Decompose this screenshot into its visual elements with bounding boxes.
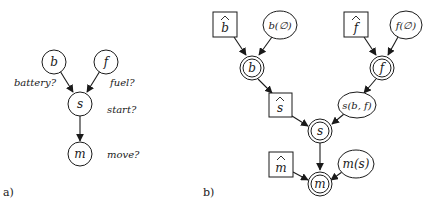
node-m-label: m <box>74 147 85 161</box>
edge-b-to-shat <box>258 79 272 93</box>
node-s-hat: s <box>269 93 292 117</box>
node-b-fn: b(∅) <box>263 11 297 39</box>
panel-a-label: a) <box>3 186 14 199</box>
panel-a: b battery? f fuel? s start? m move? a) <box>3 50 140 199</box>
edge-mfn-to-m <box>331 172 342 180</box>
node-s-hat-label: s <box>277 101 283 115</box>
node-f: f <box>94 50 118 74</box>
node-f-fn-label: f(∅) <box>395 20 417 31</box>
edge-bfn-to-b <box>259 37 272 55</box>
node-s: s <box>68 92 92 116</box>
caption-fuel: fuel? <box>109 77 135 88</box>
edge-f-to-sfn <box>364 79 376 93</box>
edge-sfn-to-s <box>332 114 344 124</box>
node-m-var: m <box>308 172 332 196</box>
node-m-var-label: m <box>314 177 325 191</box>
node-m-fn-label: m(s) <box>343 157 370 171</box>
node-b-hat: b <box>213 12 237 37</box>
node-f-hat: f <box>344 12 368 37</box>
node-m-hat: m <box>269 152 293 177</box>
node-s-fn-label: s(b, f) <box>342 100 371 111</box>
node-m-hat-label: m <box>275 161 286 175</box>
caption-battery: battery? <box>14 77 57 88</box>
edge-bhat-to-b <box>234 37 246 55</box>
node-s-var: s <box>308 119 332 143</box>
node-m: m <box>68 142 92 166</box>
node-b-var-label: b <box>248 61 256 75</box>
edge-mhat-to-m <box>293 172 308 180</box>
edge-shat-to-s <box>292 116 308 126</box>
causal-diagram: b battery? f fuel? s start? m move? a) <box>0 0 438 210</box>
caption-start: start? <box>107 104 137 115</box>
node-b-fn-label: b(∅) <box>268 20 291 31</box>
node-s-var-label: s <box>317 124 323 138</box>
node-s-fn: s(b, f) <box>338 92 376 118</box>
edge-ffn-to-f <box>388 37 398 55</box>
edge-b-to-s <box>60 71 73 92</box>
node-b-hat-label: b <box>221 21 229 35</box>
panel-b-label: b) <box>203 186 214 199</box>
edge-fhat-to-f <box>364 37 376 55</box>
edge-f-to-s <box>87 71 100 92</box>
node-b-var: b <box>240 56 264 80</box>
node-b: b <box>42 50 66 74</box>
node-m-fn: m(s) <box>338 150 374 178</box>
node-s-label: s <box>77 97 83 111</box>
caption-move: move? <box>107 149 140 160</box>
node-b-label: b <box>50 55 58 69</box>
node-f-var: f <box>370 56 394 80</box>
panel-b: b b(∅) b f f(∅) f <box>203 11 422 199</box>
node-f-fn: f(∅) <box>390 11 422 39</box>
